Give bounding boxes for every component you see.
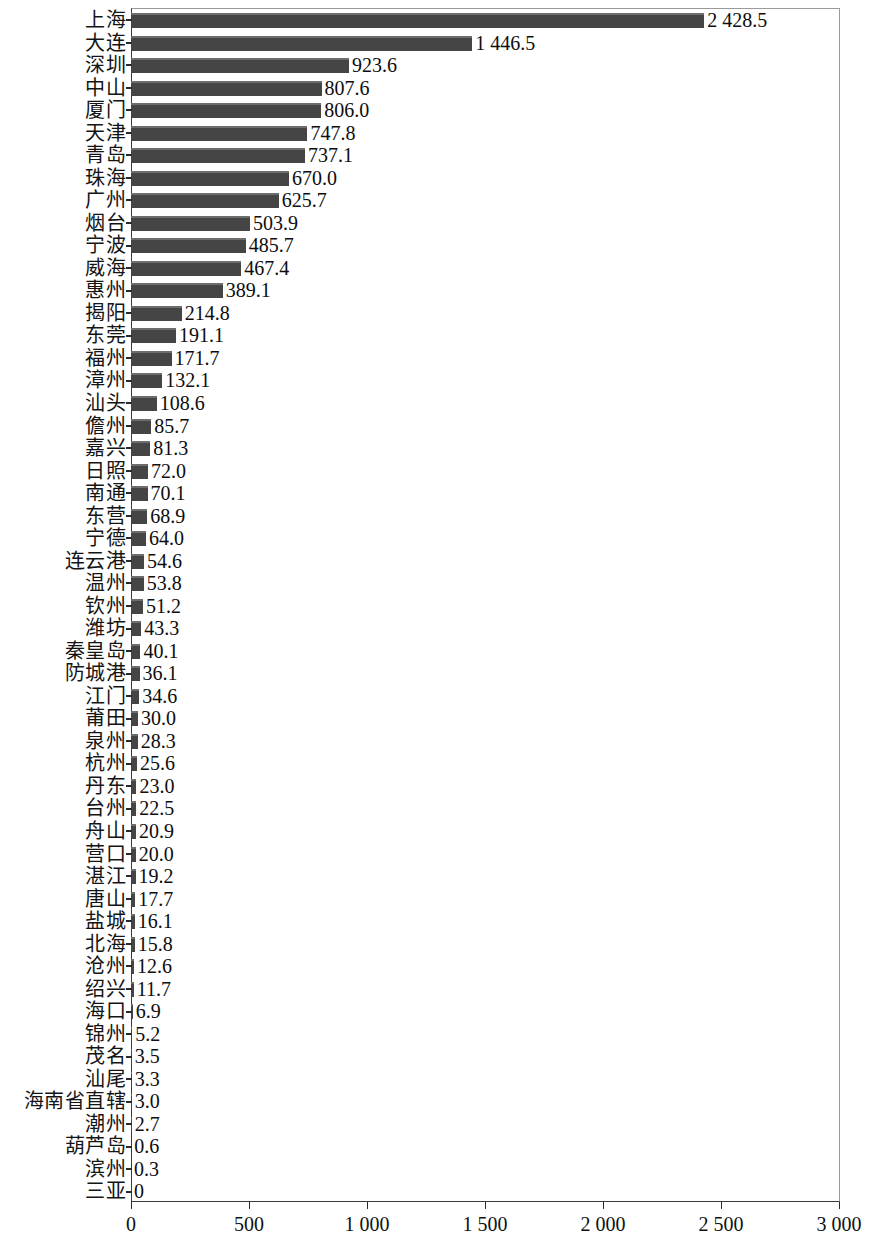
bar [131,486,148,501]
category-tick [126,267,132,269]
category-tick [126,1146,132,1148]
bar [131,576,144,591]
category-tick [126,628,132,630]
bar [131,306,182,321]
category-tick [126,695,132,697]
category-tick [126,1168,132,1170]
category-tick [126,1011,132,1013]
category-tick [126,875,132,877]
category-tick [126,154,132,156]
category-tick [126,402,132,404]
bar [131,711,138,726]
value-tick [485,1202,486,1209]
category-tick [126,673,132,675]
category-tick [126,515,132,517]
category-tick [126,650,132,652]
category-tick [126,830,132,832]
value-axis-ticks [131,1202,841,1209]
category-tick [126,943,132,945]
category-tick [126,1078,132,1080]
value-tick [249,1202,250,1209]
bar [131,621,141,636]
category-tick [126,470,132,472]
bar [131,464,148,479]
category-axis-ticks [126,8,132,1202]
bar [131,599,143,614]
value-tick-label: 500 [234,1211,264,1237]
category-tick [126,1056,132,1058]
bar [131,441,150,456]
bar [131,283,223,298]
bar [131,216,250,231]
category-tick [126,560,132,562]
value-tick-label: 0 [126,1211,136,1237]
value-axis-tick-labels: 05001 0001 5002 0002 5003 000 [0,1211,869,1239]
category-tick [126,1033,132,1035]
value-tick [603,1202,604,1209]
category-axis-labels: 上海大连深圳中山厦门天津青岛珠海广州烟台宁波威海惠州揭阳东莞福州漳州汕头儋州嘉兴… [0,8,128,1202]
value-tick-label: 2 000 [581,1211,626,1237]
bar [131,396,157,411]
category-tick [126,808,132,810]
category-tick [126,785,132,787]
category-tick [126,740,132,742]
bar [131,36,472,51]
category-label: 三亚 [85,1179,126,1204]
horizontal-bar-chart: 上海大连深圳中山厦门天津青岛珠海广州烟台宁波威海惠州揭阳东莞福州漳州汕头儋州嘉兴… [0,0,869,1240]
value-tick [131,1202,132,1209]
category-tick [126,380,132,382]
bar [131,644,140,659]
value-tick-label: 3 000 [817,1211,862,1237]
category-tick [126,1101,132,1103]
category-tick [126,312,132,314]
category-tick [126,222,132,224]
category-tick [126,718,132,720]
category-tick [126,898,132,900]
bar [131,81,322,96]
bars-layer: 2 428.51 446.5923.6807.6806.0747.8737.16… [131,8,840,1202]
bar [131,531,146,546]
category-tick [126,988,132,990]
value-tick-label: 1 500 [463,1211,508,1237]
value-tick [367,1202,368,1209]
bar [131,689,139,704]
bar [131,103,321,118]
value-tick [721,1202,722,1209]
category-tick [126,447,132,449]
bar [131,238,246,253]
bar [131,13,704,28]
category-tick [126,177,132,179]
bar [131,58,349,73]
bar [131,554,144,569]
category-tick [126,853,132,855]
category-tick [126,537,132,539]
bar [131,734,138,749]
category-tick [126,64,132,66]
category-tick [126,1191,132,1193]
category-tick [126,582,132,584]
category-tick [126,109,132,111]
bar [131,373,162,388]
category-tick [126,290,132,292]
bar [131,351,172,366]
category-tick [126,132,132,134]
category-tick [126,357,132,359]
category-tick [126,245,132,247]
category-tick [126,335,132,337]
category-tick [126,87,132,89]
category-tick [126,19,132,21]
bar [131,666,140,681]
bar [131,126,307,141]
bar [131,509,147,524]
category-tick [126,1123,132,1125]
bar [131,328,176,343]
bar [131,193,279,208]
category-tick [126,920,132,922]
category-tick [126,763,132,765]
category-tick [126,605,132,607]
category-tick [126,425,132,427]
value-tick-label: 1 000 [345,1211,390,1237]
value-tick-label: 2 500 [699,1211,744,1237]
category-tick [126,492,132,494]
bar [131,261,241,276]
